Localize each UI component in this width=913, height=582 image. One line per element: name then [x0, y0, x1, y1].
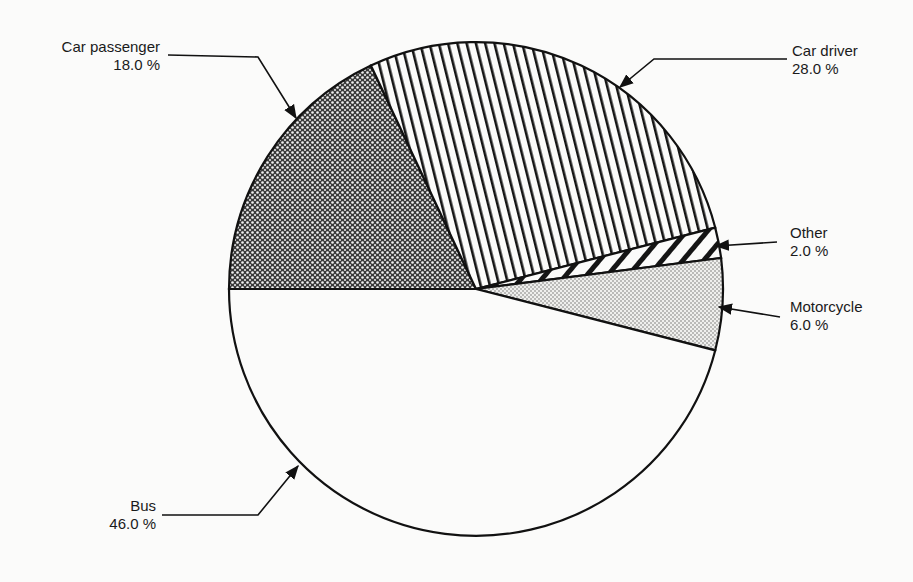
- label-other-pct: 2.0 %: [790, 242, 828, 260]
- pie-chart: [0, 0, 913, 582]
- label-car-driver-name: Car driver: [792, 42, 858, 60]
- label-car-driver-pct: 28.0 %: [792, 60, 858, 78]
- label-car-passenger-pct: 18.0 %: [40, 56, 160, 74]
- label-motorcycle: Motorcycle 6.0 %: [790, 298, 863, 334]
- label-motorcycle-name: Motorcycle: [790, 298, 863, 316]
- callout-car-passenger: [168, 55, 296, 118]
- label-bus-pct: 46.0 %: [60, 515, 156, 533]
- callout-other: [716, 242, 777, 246]
- callout-bus: [162, 466, 298, 515]
- label-car-passenger-name: Car passenger: [40, 38, 160, 56]
- label-car-driver: Car driver 28.0 %: [792, 42, 858, 78]
- label-other: Other 2.0 %: [790, 224, 828, 260]
- label-bus-name: Bus: [60, 497, 156, 515]
- label-bus: Bus 46.0 %: [60, 497, 156, 533]
- label-motorcycle-pct: 6.0 %: [790, 316, 863, 334]
- label-other-name: Other: [790, 224, 828, 242]
- callout-car-driver: [620, 59, 787, 87]
- label-car-passenger: Car passenger 18.0 %: [40, 38, 160, 74]
- callout-motorcycle: [719, 307, 780, 317]
